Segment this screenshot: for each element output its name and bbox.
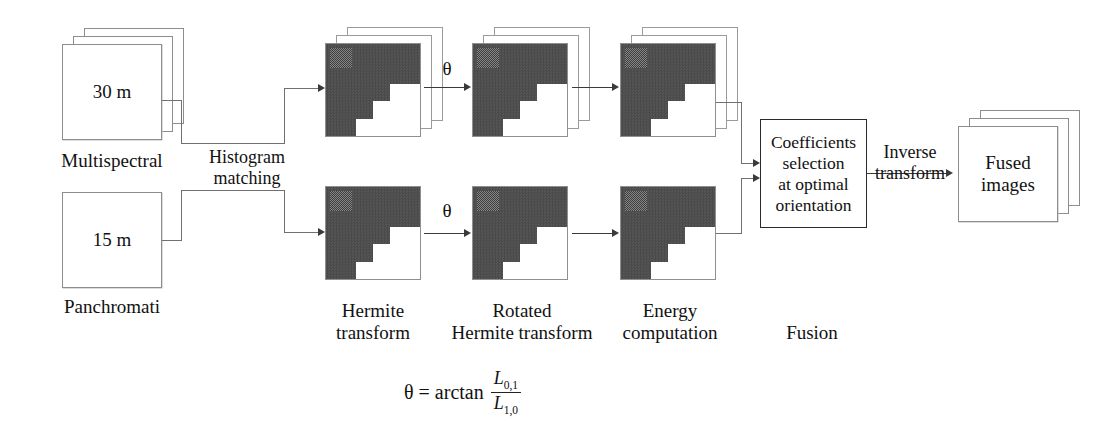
arrow-into-fusion-bottom bbox=[753, 174, 760, 182]
energy-top-corner-speck bbox=[625, 48, 648, 68]
multispectral-value-label: 30 m bbox=[63, 81, 161, 103]
energy-top-image bbox=[620, 43, 716, 137]
rotated-top-image bbox=[472, 43, 568, 137]
energy-bottom-step-3 bbox=[651, 262, 715, 279]
energy-bottom-image bbox=[620, 186, 716, 280]
panchromatic-caption: Panchromati bbox=[22, 296, 202, 318]
panchromatic-input-box: 15 m bbox=[62, 192, 162, 288]
arrow-head-bottom-1 bbox=[464, 229, 471, 237]
connector-pan-out-h bbox=[162, 240, 182, 241]
arrow-head-bottom-2 bbox=[612, 229, 619, 237]
arrow-line-bottom-2 bbox=[572, 233, 614, 234]
arrow-into-fusion-top bbox=[753, 159, 760, 167]
theta-formula-fraction: L0,1 L1,0 bbox=[491, 368, 521, 418]
histogram-matching-label: Histogram matching bbox=[182, 147, 312, 189]
connector-pan-out-v bbox=[181, 190, 182, 241]
arrow-line-bottom-1 bbox=[424, 233, 466, 234]
rotated-top-corner-speck bbox=[477, 48, 500, 68]
numerator-symbol: L bbox=[494, 368, 504, 388]
energy-top-step-3 bbox=[651, 119, 715, 136]
hermite-top-step-3 bbox=[356, 119, 420, 136]
arrow-line-top-1 bbox=[424, 87, 466, 88]
connector-pan-to-hist bbox=[181, 190, 285, 191]
inverse-transform-label: Inverse transform bbox=[862, 142, 958, 184]
connector-ms-out-v bbox=[181, 100, 182, 144]
arrow-head-top-2 bbox=[612, 83, 619, 91]
theta-formula-lhs: θ = arctan bbox=[404, 381, 484, 404]
energy-computation-stack-top bbox=[620, 27, 738, 143]
theta-formula-numerator: L0,1 bbox=[491, 368, 521, 392]
energy-computation-caption: Energy computation bbox=[600, 300, 740, 344]
connector-ms-to-hist bbox=[181, 143, 285, 144]
rotated-top-step-3 bbox=[503, 119, 567, 136]
connector-hist-bot-riser bbox=[284, 190, 285, 233]
fusion-caption: Fusion bbox=[752, 322, 872, 344]
theta-label-bottom: θ bbox=[432, 200, 462, 222]
hermite-top-image bbox=[325, 43, 421, 137]
hermite-transform-stack-top bbox=[325, 27, 443, 143]
coefficients-selection-text: Coefficients selection at optimal orient… bbox=[767, 132, 860, 216]
arrow-into-hermite-bottom bbox=[318, 228, 325, 236]
multispectral-stack-layer-1: 30 m bbox=[62, 44, 162, 140]
rotated-bottom-step-3 bbox=[503, 262, 567, 279]
arrow-line-top-2 bbox=[572, 87, 614, 88]
coefficients-selection-box: Coefficients selection at optimal orient… bbox=[760, 119, 867, 228]
connector-energy-top-drop bbox=[741, 102, 742, 164]
theta-label-top: θ bbox=[432, 58, 462, 80]
hermite-top-corner-speck bbox=[330, 48, 353, 68]
theta-formula-denominator: L1,0 bbox=[491, 393, 521, 417]
rotated-bottom-image bbox=[472, 186, 568, 280]
fused-images-text: Fused images bbox=[959, 152, 1057, 196]
connector-energy-top-out bbox=[716, 102, 742, 103]
rotated-bottom-corner-speck bbox=[477, 191, 500, 211]
connector-energy-bottom-out bbox=[716, 233, 742, 234]
hermite-bottom-image bbox=[325, 186, 421, 280]
theta-formula: θ = arctan L0,1 L1,0 bbox=[404, 368, 521, 418]
rotated-hermite-caption: Rotated Hermite transform bbox=[432, 300, 612, 344]
arrow-head-top-1 bbox=[464, 83, 471, 91]
connector-hist-top-run bbox=[284, 88, 320, 89]
panchromatic-value-label: 15 m bbox=[63, 229, 161, 251]
denominator-symbol: L bbox=[494, 393, 504, 413]
connector-ms-out-h bbox=[162, 100, 182, 101]
arrow-into-hermite-top bbox=[318, 84, 325, 92]
diagram-canvas: 30 m Multispectral 15 m Panchromati Hist… bbox=[0, 0, 1102, 433]
hermite-transform-caption: Hermite transform bbox=[303, 300, 443, 344]
multispectral-caption: Multispectral bbox=[22, 150, 202, 172]
connector-energy-bottom-rise bbox=[741, 178, 742, 234]
denominator-subscript: 1,0 bbox=[504, 404, 518, 416]
rotated-hermite-stack-top bbox=[472, 27, 590, 143]
connector-hist-bot-run bbox=[284, 232, 320, 233]
energy-bottom-corner-speck bbox=[625, 191, 648, 211]
connector-hist-top-riser bbox=[284, 88, 285, 144]
hermite-bottom-step-3 bbox=[356, 262, 420, 279]
hermite-bottom-corner-speck bbox=[330, 191, 353, 211]
fused-stack-layer-1: Fused images bbox=[958, 126, 1058, 222]
numerator-subscript: 0,1 bbox=[504, 379, 518, 391]
